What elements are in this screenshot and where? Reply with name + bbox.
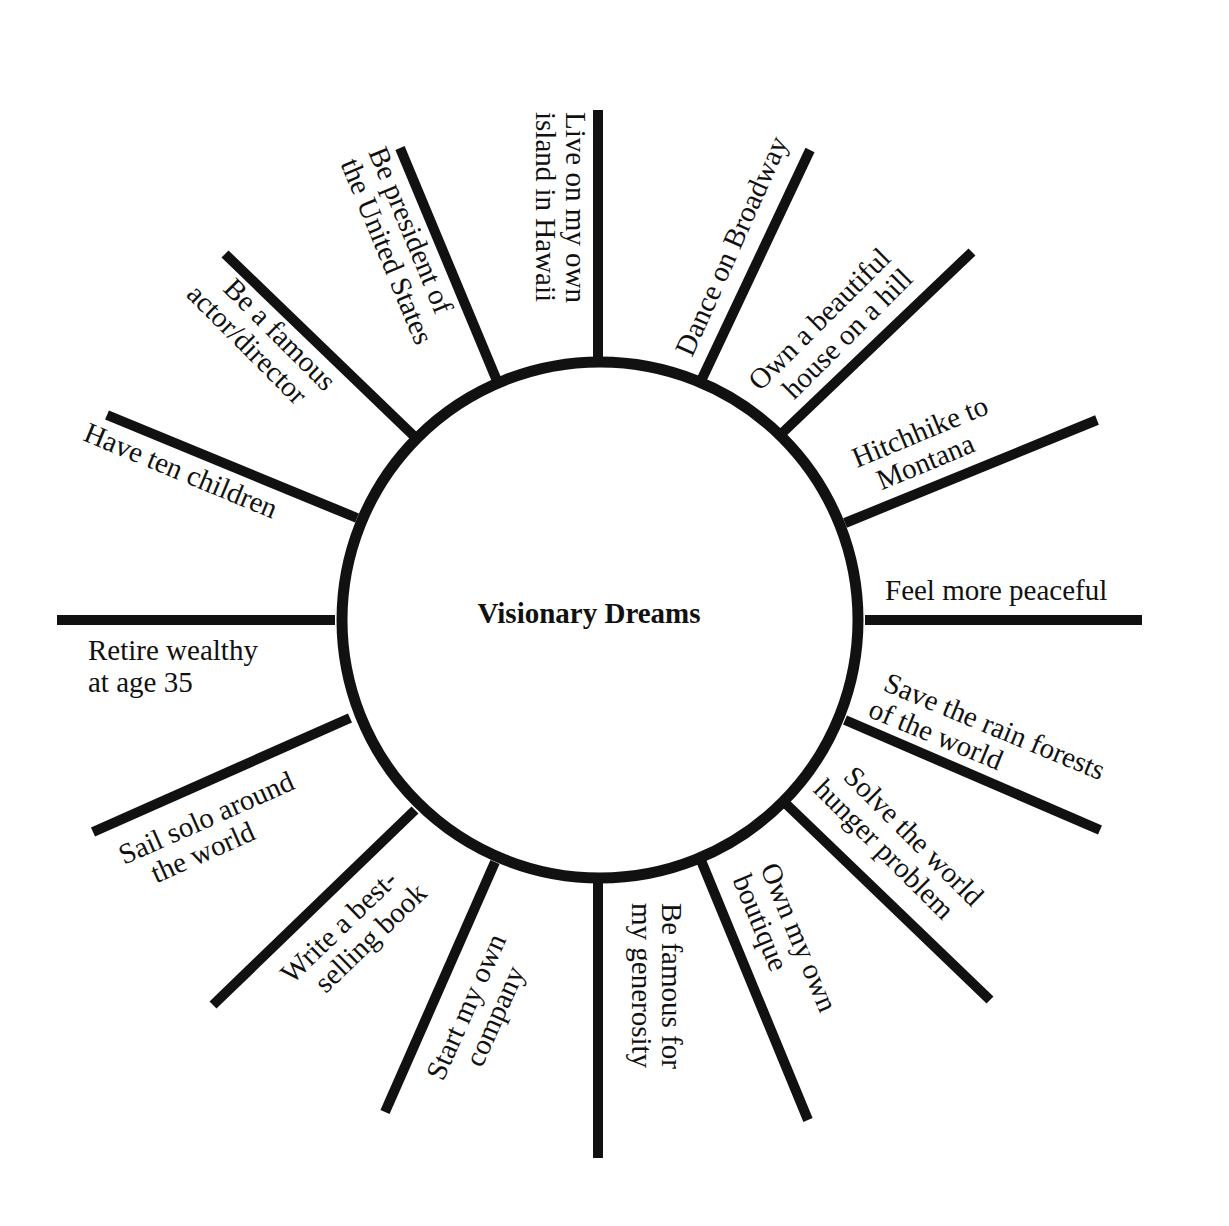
label-generosity: Be famous for my generosity [626,903,688,1069]
svg-text:Be famous for: Be famous for [656,903,688,1069]
label-president: Be president of the United States [335,142,468,349]
visionary-dreams-diagram: Visionary Dreams Live on my own island i… [0,0,1229,1226]
svg-text:Retire wealthy: Retire wealthy [88,634,258,666]
label-boutique: Own my own boutique [727,858,845,1028]
svg-text:island in Hawaii: island in Hawaii [530,112,562,302]
svg-text:Live on my own: Live on my own [560,112,592,303]
svg-text:Feel more peaceful: Feel more peaceful [885,574,1107,606]
diagram-title: Visionary Dreams [477,597,700,629]
label-peaceful: Feel more peaceful [885,574,1107,606]
label-actor: Be a famous actor/director [181,256,343,418]
svg-text:my generosity: my generosity [626,903,658,1069]
svg-text:at age 35: at age 35 [88,666,193,698]
label-bestseller: Write a best- selling book [274,854,433,1010]
label-company: Start my own company [419,928,539,1096]
label-hawaii: Live on my own island in Hawaii [530,112,592,303]
label-montana: Hitchhike to Montana [847,389,1004,501]
label-retire: Retire wealthy at age 35 [88,634,258,698]
